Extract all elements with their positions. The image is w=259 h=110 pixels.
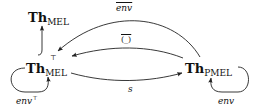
label-env-bar: env [116,4,132,13]
node-base: Th [26,61,45,76]
edge-s [71,73,182,81]
label-s: s [128,85,133,94]
edge-inclusion [38,26,42,55]
node-th-pmel: ThPMEL [185,60,232,76]
node-sup: ⊤ [50,55,57,62]
label-env-top-text: env [16,96,32,106]
node-th-mel-top: ThMEL ⊤ [26,60,67,76]
label-env-top: env⊤ [16,97,38,106]
label-env-top-sup: ⊤ [32,94,38,101]
node-sub: MEL [45,68,67,78]
label-paren-bar: (_) [121,36,131,44]
label-env-loop: env [218,97,234,106]
edge-paren-bar [72,48,183,58]
node-th-mel: ThMEL [28,9,69,25]
node-base: Th [28,10,47,25]
node-sub: PMEL [204,68,232,78]
node-base: Th [185,61,204,76]
node-sub: MEL [47,17,69,27]
